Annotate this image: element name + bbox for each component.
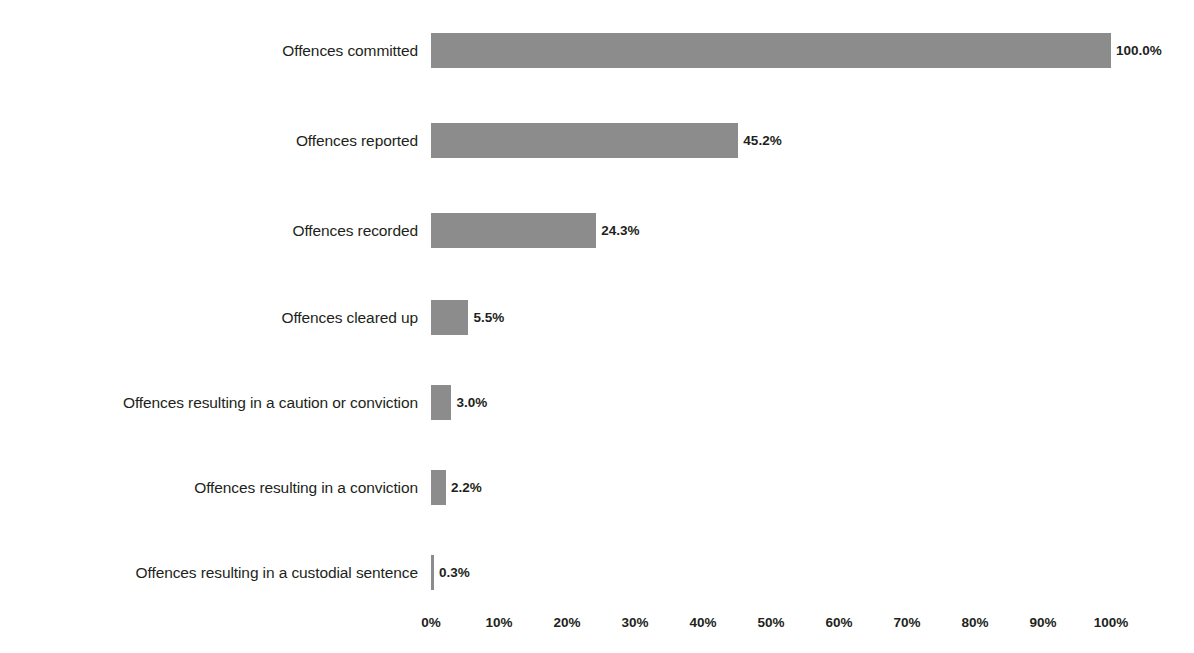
bar-row: Offences recorded24.3%: [0, 213, 1194, 248]
bar-value-label: 100.0%: [1111, 33, 1162, 68]
category-label: Offences committed: [0, 33, 418, 68]
bar-row: Offences resulting in a custodial senten…: [0, 555, 1194, 590]
category-label: Offences reported: [0, 123, 418, 158]
category-label: Offences resulting in a conviction: [0, 470, 418, 505]
bar-track: 24.3%: [431, 213, 1194, 248]
x-axis-tick-label: 100%: [1071, 612, 1151, 634]
category-label: Offences resulting in a custodial senten…: [0, 555, 418, 590]
bar: [431, 123, 738, 158]
bar-value-label: 0.3%: [434, 555, 470, 590]
bar-value-label: 45.2%: [738, 123, 781, 158]
bar: [431, 213, 596, 248]
bar: [431, 470, 446, 505]
bar-value-label: 5.5%: [468, 300, 504, 335]
bar-row: Offences resulting in a caution or convi…: [0, 385, 1194, 420]
x-axis: 0%10%20%30%40%50%60%70%80%90%100%: [0, 612, 1194, 642]
bar-row: Offences cleared up5.5%: [0, 300, 1194, 335]
category-label: Offences cleared up: [0, 300, 418, 335]
bar-row: Offences committed100.0%: [0, 33, 1194, 68]
bar-value-label: 24.3%: [596, 213, 639, 248]
bar: [431, 300, 468, 335]
bar-track: 0.3%: [431, 555, 1194, 590]
bar-value-label: 2.2%: [446, 470, 482, 505]
bar-value-label: 3.0%: [451, 385, 487, 420]
bar-row: Offences resulting in a conviction2.2%: [0, 470, 1194, 505]
bar-track: 5.5%: [431, 300, 1194, 335]
attrition-funnel-bar-chart: Offences committed100.0%Offences reporte…: [0, 0, 1194, 653]
category-label: Offences recorded: [0, 213, 418, 248]
bar-track: 2.2%: [431, 470, 1194, 505]
bar-track: 3.0%: [431, 385, 1194, 420]
bar-track: 45.2%: [431, 123, 1194, 158]
bar: [431, 33, 1111, 68]
bar: [431, 385, 451, 420]
category-label: Offences resulting in a caution or convi…: [0, 385, 418, 420]
bar-row: Offences reported45.2%: [0, 123, 1194, 158]
bar-track: 100.0%: [431, 33, 1194, 68]
